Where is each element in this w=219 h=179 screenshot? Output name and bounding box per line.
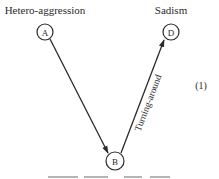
node-a-title: Hetero-aggression [5,4,86,16]
cut-off-caption [48,176,170,178]
node-d-title: Sadism [155,4,188,16]
node-b: B [106,152,124,170]
node-b-label: B [112,157,118,167]
node-d: D [163,24,179,40]
diagram-canvas: Hetero-aggression Sadism Turning-around … [0,0,219,179]
equation-number: (1) [195,80,207,92]
edge-a-to-b [50,39,108,153]
edge-b-to-d [121,40,164,153]
node-a-label: A [42,28,49,38]
node-d-label: D [168,28,175,38]
node-a: A [37,24,53,40]
